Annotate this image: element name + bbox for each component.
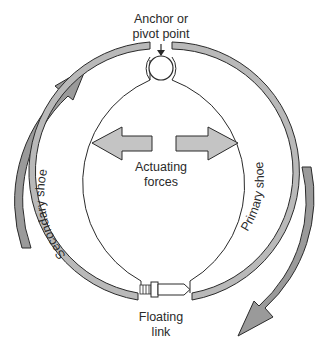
rotation-arrow-right xyxy=(238,167,314,336)
anchor-pin xyxy=(149,44,173,80)
drum-brake-diagram: Secondary shoe Primary shoe Anchor or pi… xyxy=(0,0,323,354)
floating-link-label: Floating link xyxy=(126,310,196,340)
anchor-label-line1: Anchor or xyxy=(111,12,211,27)
actuating-force-left xyxy=(92,127,152,160)
secondary-shoe-label: Secondary shoe xyxy=(33,168,68,262)
actuating-label-line2: forces xyxy=(121,175,201,190)
floating-label-line2: link xyxy=(126,325,196,340)
anchor-label: Anchor or pivot point xyxy=(111,12,211,42)
actuating-label-line1: Actuating xyxy=(121,160,201,175)
actuating-force-right xyxy=(176,127,238,160)
actuating-forces-label: Actuating forces xyxy=(121,160,201,190)
arrow-down-icon xyxy=(157,50,165,56)
primary-shoe-label: Primary shoe xyxy=(238,161,267,234)
anchor-label-line2: pivot point xyxy=(111,27,211,42)
floating-label-line1: Floating xyxy=(126,310,196,325)
floating-link xyxy=(140,282,190,297)
